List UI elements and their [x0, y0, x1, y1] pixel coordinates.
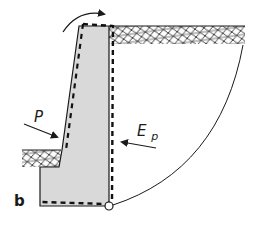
retaining-wall-rotation-diagram: P E p b	[0, 0, 264, 233]
retaining-wall	[40, 26, 109, 206]
toe-soil	[22, 150, 61, 167]
panel-label: b	[14, 192, 25, 210]
active-force-label: P	[34, 108, 44, 126]
backfill-soil	[109, 26, 245, 44]
passive-force-label-sub: p	[150, 130, 158, 143]
hinge-point	[105, 202, 113, 210]
passive-force-label: E p	[137, 122, 158, 143]
slip-circle-arc	[113, 45, 243, 205]
passive-force-label-main: E	[137, 122, 147, 140]
